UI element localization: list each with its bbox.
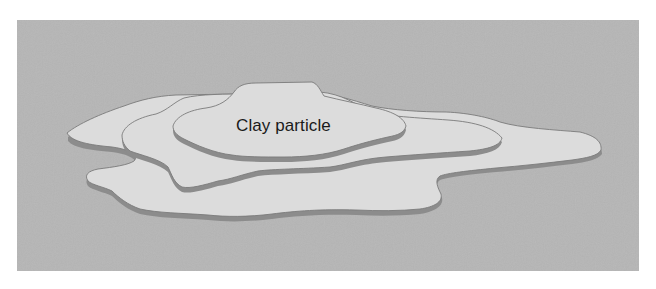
- clay-particle-label: Clay particle: [236, 116, 331, 136]
- clay-particle-diagram: [0, 0, 656, 289]
